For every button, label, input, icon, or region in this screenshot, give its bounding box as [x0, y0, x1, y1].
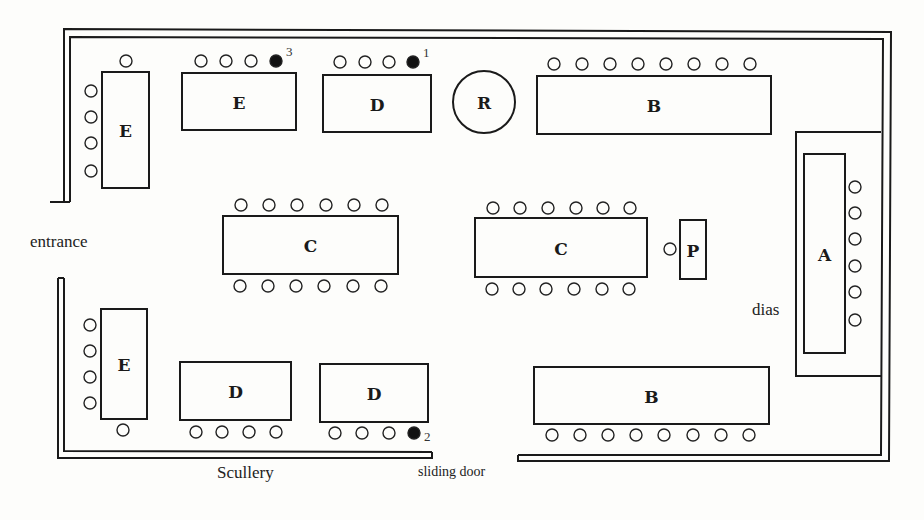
seat [85, 111, 97, 123]
seat [486, 283, 498, 295]
table-a: A [804, 154, 845, 353]
seat [356, 427, 368, 439]
seat [190, 426, 202, 438]
table-label: A [817, 245, 832, 265]
table-d-top: D [323, 75, 431, 132]
table-label: P [687, 241, 700, 261]
seat [195, 55, 207, 67]
seat [84, 397, 96, 409]
seat [270, 426, 282, 438]
seat [514, 202, 526, 214]
table-label: E [118, 355, 131, 375]
seat [290, 280, 302, 292]
seat [623, 283, 635, 295]
seat [318, 280, 330, 292]
tables: EEDRBACCPEDDB [101, 71, 845, 424]
seat [235, 199, 247, 211]
seat [849, 260, 861, 272]
marked-seat-2 [408, 427, 420, 439]
seat [216, 426, 228, 438]
seat [660, 58, 672, 70]
sliding-door-label: sliding door [418, 464, 486, 479]
seat [85, 165, 97, 177]
entrance-label: entrance [30, 232, 88, 251]
seat [117, 424, 129, 436]
table-label: E [119, 121, 132, 141]
table-label: D [228, 382, 243, 402]
seat [359, 56, 371, 68]
table-d-bottom-right: D [320, 364, 428, 422]
seat [291, 199, 303, 211]
table-label: C [304, 236, 318, 256]
seat [576, 58, 588, 70]
seat [234, 280, 246, 292]
seat [347, 280, 359, 292]
seat [383, 56, 395, 68]
seat [658, 429, 670, 441]
seat-number-2: 2 [424, 429, 431, 444]
table-e-left-bottom: E [101, 309, 147, 419]
seat [263, 199, 275, 211]
floor-plan-drawing: EEDRBACCPEDDB 312 entrance Scullery slid… [0, 0, 924, 520]
seat [84, 345, 96, 357]
seat [84, 319, 96, 331]
table-label: D [367, 384, 382, 404]
seat [85, 85, 97, 97]
seat [85, 137, 97, 149]
seat [687, 429, 699, 441]
seat [548, 58, 560, 70]
table-label: D [370, 95, 385, 115]
seat [348, 199, 360, 211]
seat [849, 286, 861, 298]
table-label: C [554, 239, 568, 259]
seat [849, 181, 861, 193]
table-label: B [647, 96, 661, 116]
seat [849, 314, 861, 326]
seat [513, 283, 525, 295]
seat [604, 58, 616, 70]
seat [487, 202, 499, 214]
table-b-top: B [537, 76, 771, 134]
table-c-right: C [475, 218, 647, 277]
seat [120, 55, 132, 67]
table-label: E [233, 93, 246, 113]
seat [262, 280, 274, 292]
seat [376, 199, 388, 211]
seat [84, 371, 96, 383]
seat [624, 202, 636, 214]
table-e-top: E [182, 73, 296, 130]
seat [375, 280, 387, 292]
table-d-bottom-left: D [180, 362, 291, 420]
seat [220, 55, 232, 67]
seat [688, 58, 700, 70]
seat [743, 429, 755, 441]
table-label: B [644, 387, 658, 407]
table-b-bottom: B [534, 367, 769, 424]
marked-seat-1 [407, 56, 419, 68]
floor-plan: EEDRBACCPEDDB 312 entrance Scullery slid… [0, 0, 924, 520]
table-c-left: C [223, 216, 398, 274]
seat [664, 243, 676, 255]
seat-number-3: 3 [286, 44, 293, 59]
seat [849, 207, 861, 219]
seat [744, 58, 756, 70]
table-r: R [453, 71, 515, 133]
seat [849, 233, 861, 245]
seat [632, 58, 644, 70]
seat [574, 429, 586, 441]
seat [329, 427, 341, 439]
seat [383, 427, 395, 439]
seat [320, 199, 332, 211]
scullery-label: Scullery [217, 463, 274, 482]
seat [716, 58, 728, 70]
dias-label: dias [752, 300, 779, 319]
table-label: R [477, 93, 492, 113]
marked-seat-3 [270, 55, 282, 67]
seat [570, 202, 582, 214]
seat [568, 283, 580, 295]
seat [334, 56, 346, 68]
seat [630, 429, 642, 441]
seat [245, 55, 257, 67]
seat [597, 202, 609, 214]
seat [546, 429, 558, 441]
